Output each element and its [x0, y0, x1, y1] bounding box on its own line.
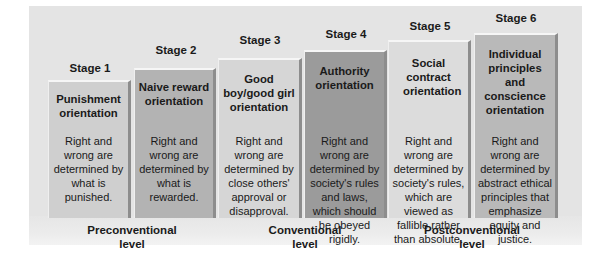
stage-4-title: Authority orientation	[305, 52, 384, 134]
stage-5-label: Stage 5	[388, 20, 472, 32]
stage-5-title: Social contract orientation	[389, 42, 468, 134]
stage-1-label: Stage 1	[48, 62, 132, 74]
stage-4-label: Stage 4	[304, 28, 388, 40]
level-preconventional-line2: level	[80, 237, 184, 251]
stage-6-title: Individual principles and conscience ori…	[475, 35, 555, 134]
stage-3-label: Stage 3	[218, 34, 302, 46]
level-conventional-line2: level	[260, 237, 350, 251]
stage-2-description: Right and wrong are determined by what i…	[135, 134, 213, 204]
stage-6-label: Stage 6	[474, 12, 558, 24]
level-postconventional-line1: Postconventional	[416, 223, 528, 237]
stage-4-column: Authority orientation Right and wrong ar…	[304, 50, 387, 218]
stage-1-title: Punishment orientation	[49, 82, 128, 134]
stage-6-column: Individual principles and conscience ori…	[474, 33, 558, 218]
stage-1-column: Punishment orientation Right and wrong a…	[48, 80, 131, 218]
level-conventional: Conventional level	[260, 223, 350, 251]
stage-2-column: Naive reward orientation Right and wrong…	[134, 68, 216, 218]
level-conventional-line1: Conventional	[260, 223, 350, 237]
stage-3-title: Good boy/good girl orientation	[219, 60, 299, 134]
stage-3-column: Good boy/good girl orientation Right and…	[218, 58, 302, 218]
level-postconventional: Postconventional level	[416, 223, 528, 251]
stage-3-description: Right and wrong are determined by close …	[219, 134, 299, 218]
level-preconventional: Preconventional level	[80, 223, 184, 251]
stage-1-description: Right and wrong are determined by what i…	[49, 134, 128, 204]
stage-5-column: Social contract orientation Right and wr…	[388, 40, 471, 218]
level-preconventional-line1: Preconventional	[80, 223, 184, 237]
stage-2-title: Naive reward orientation	[135, 70, 213, 134]
level-postconventional-line2: level	[416, 237, 528, 251]
stage-2-label: Stage 2	[134, 44, 218, 56]
